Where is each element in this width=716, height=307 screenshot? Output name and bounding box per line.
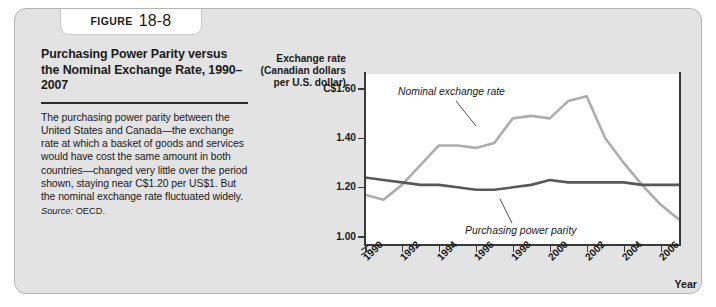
title-divider (41, 102, 248, 104)
y-tick-label-1.40: 1.40 (308, 132, 356, 143)
y-tick-label-1.20: 1.20 (308, 181, 356, 192)
y-axis-line (364, 72, 366, 246)
figure-number-badge: FIGURE 18-8 (60, 8, 202, 35)
y-axis-title-line-1: Exchange rate (254, 53, 346, 65)
figure-text-column: Purchasing Power Parity versus the Nomin… (41, 47, 248, 216)
annotation-purchasing-power-parity: Purchasing power parity (463, 225, 578, 236)
source-label: Source: (41, 206, 73, 216)
chart-container: Exchange rate (Canadian dollars per U.S.… (254, 47, 699, 292)
figure-source: Source: OECD. (41, 206, 248, 216)
plot-right-edge (679, 72, 681, 246)
y-tick-label-1.60: C$1.60 (308, 83, 356, 94)
series-line-nominal (365, 96, 679, 219)
figure-card: FIGURE 18-8 Purchasing Power Parity vers… (14, 8, 702, 294)
y-axis-title-line-2: (Canadian dollars (254, 65, 346, 77)
series-line-ppp (365, 177, 679, 189)
y-tick-label-1.00: 1.00 (308, 231, 356, 242)
figure-caption-body: The purchasing power parity between the … (41, 111, 248, 204)
figure-title: Purchasing Power Parity versus the Nomin… (41, 47, 248, 94)
plot-area (365, 74, 679, 244)
axis-break-icon (359, 243, 373, 259)
annotation-nominal-exchange-rate: Nominal exchange rate (396, 86, 507, 97)
plot-lines (365, 74, 679, 244)
source-value: OECD. (76, 206, 105, 216)
figure-number: 18-8 (139, 12, 172, 30)
x-axis-title: Year (675, 278, 697, 290)
figure-label: FIGURE (91, 15, 133, 27)
